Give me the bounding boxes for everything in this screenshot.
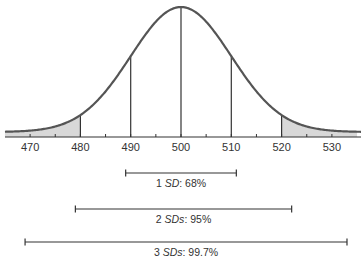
range-2-sd: 2 SDs: 95%: [75, 206, 291, 226]
range-3-label: 3 SDs: 99.7%: [154, 246, 218, 258]
range-3-sd: 3 SDs: 99.7%: [25, 239, 347, 259]
bell-curve: [5, 7, 361, 132]
x-axis-tick-labels: 470 480 490 500 510 520 530: [21, 141, 341, 153]
tick-label-480: 480: [71, 141, 89, 153]
tick-label-500: 500: [172, 141, 190, 153]
normal-distribution-diagram: 470 480 490 500 510 520 530 1 SD: 68% 2 …: [0, 0, 361, 260]
right-tail-shade: [282, 115, 357, 137]
range-1-sd: 1 SD: 68%: [126, 170, 237, 190]
tick-label-490: 490: [122, 141, 140, 153]
tick-label-520: 520: [272, 141, 290, 153]
tick-label-510: 510: [222, 141, 240, 153]
left-tail-shade: [5, 115, 80, 137]
sd-vertical-lines: [80, 7, 281, 137]
tick-label-470: 470: [21, 141, 39, 153]
range-2-label: 2 SDs: 95%: [156, 213, 211, 225]
tick-label-530: 530: [323, 141, 341, 153]
range-1-label: 1 SD: 68%: [156, 177, 206, 189]
